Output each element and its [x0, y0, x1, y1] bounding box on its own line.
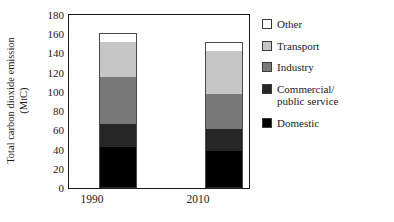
bar-segment-2010-transport — [205, 51, 243, 94]
bar-segment-1990-domestic — [99, 147, 137, 188]
legend-swatch-domestic — [262, 118, 272, 128]
legend-swatch-commercial-public-service — [262, 84, 272, 94]
y-tick-label-180: 180 — [48, 10, 65, 21]
bar-1990 — [99, 33, 137, 188]
y-tick-label-160: 160 — [48, 29, 65, 40]
x-axis-label-0: 1990 — [57, 193, 127, 206]
y-tick-label-120: 120 — [48, 67, 65, 78]
y-axis-ticks: 020406080100120140160180 — [38, 14, 68, 189]
legend-label-industry: Industry — [277, 61, 314, 74]
y-axis-title: Total carbon dioxide emission (MtC) — [0, 0, 34, 200]
bar-segment-2010-other — [205, 42, 243, 51]
legend-item-transport: Transport — [262, 40, 392, 53]
legend-label-domestic: Domestic — [277, 117, 319, 130]
y-tick-label-0: 0 — [59, 183, 65, 194]
legend-label-other: Other — [277, 18, 302, 31]
legend-item-domestic: Domestic — [262, 117, 392, 130]
chart-root: Total carbon dioxide emission (MtC) 0204… — [0, 0, 394, 222]
bar-segment-1990-industry — [99, 77, 137, 124]
y-tick-label-80: 80 — [53, 106, 64, 117]
legend-item-other: Other — [262, 18, 392, 31]
bar-segment-2010-industry — [205, 94, 243, 130]
bar-segment-2010-commercial-public-service — [205, 129, 243, 150]
chart-legend: OtherTransportIndustryCommercial/ public… — [262, 18, 392, 138]
legend-item-commercial-public-service: Commercial/ public service — [262, 83, 392, 108]
legend-item-industry: Industry — [262, 61, 392, 74]
bar-segment-1990-other — [99, 33, 137, 42]
x-axis-label-1: 2010 — [163, 193, 233, 206]
legend-swatch-transport — [262, 41, 272, 51]
bar-2010 — [205, 42, 243, 188]
legend-swatch-other — [262, 19, 272, 29]
y-tick-label-20: 20 — [53, 163, 64, 174]
legend-label-commercial-public-service: Commercial/ public service — [277, 83, 338, 108]
y-tick-label-140: 140 — [48, 48, 65, 59]
legend-swatch-industry — [262, 62, 272, 72]
plot-area — [68, 14, 250, 189]
y-axis-title-line2: (MtC) — [17, 37, 30, 164]
bar-segment-1990-transport — [99, 42, 137, 77]
y-tick-label-60: 60 — [53, 125, 64, 136]
y-tick-label-100: 100 — [48, 86, 65, 97]
legend-label-transport: Transport — [277, 40, 319, 53]
y-axis-title-line1: Total carbon dioxide emission — [5, 37, 16, 164]
bar-segment-2010-domestic — [205, 151, 243, 188]
bar-segment-1990-commercial-public-service — [99, 124, 137, 147]
y-tick-label-40: 40 — [53, 144, 64, 155]
